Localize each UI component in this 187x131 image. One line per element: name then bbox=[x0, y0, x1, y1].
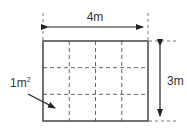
height-label: 3m bbox=[167, 74, 184, 88]
unit-square-pointer-arrow bbox=[28, 94, 55, 108]
unit-square-label: 1m2 bbox=[10, 76, 31, 90]
width-label: 4m bbox=[87, 10, 104, 24]
unit-grid bbox=[43, 41, 148, 121]
rectangle-area-diagram: 4m 3m 1m2 bbox=[0, 0, 187, 131]
rectangle-outline bbox=[43, 41, 148, 121]
